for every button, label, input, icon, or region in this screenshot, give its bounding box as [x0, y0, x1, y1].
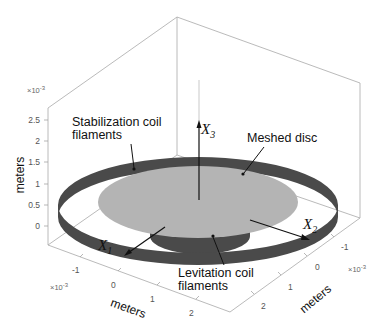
x-tick: -1 — [72, 265, 80, 275]
y-tick: 2 — [261, 301, 266, 311]
svg-text:filaments: filaments — [178, 279, 228, 293]
z-axis-ticks — [44, 120, 48, 226]
x-tick: 1 — [150, 294, 155, 304]
y-axis-label: meters — [297, 282, 334, 316]
svg-text:Stabilization coil: Stabilization coil — [72, 115, 162, 129]
svg-text:Meshed disc: Meshed disc — [247, 131, 317, 145]
x-exponent: ×10-3 — [50, 282, 69, 292]
x-tick: 2 — [189, 308, 194, 318]
z-tick: 0.5 — [28, 200, 40, 210]
z-tick: 2 — [35, 136, 40, 146]
x-axis-label: meters — [109, 295, 148, 321]
z-axis-label: meters — [13, 157, 27, 194]
3d-plot: 2.5 2 1.5 1 0.5 0 ×10-3 meters -1 0 1 2 … — [0, 0, 385, 331]
y-tick: 1 — [288, 282, 293, 292]
meshed-disc — [98, 166, 298, 238]
z-tick: 1 — [35, 179, 40, 189]
y-tick: -1 — [341, 242, 349, 252]
svg-text:Levitation coil: Levitation coil — [178, 266, 254, 280]
x2-label: X2 — [302, 216, 317, 235]
svg-text:filaments: filaments — [72, 128, 122, 142]
x3-label: X3 — [200, 121, 215, 140]
z-exponent: ×10-3 — [27, 85, 46, 95]
z-tick: 0 — [35, 221, 40, 231]
x1-label: X1 — [97, 237, 112, 256]
y-tick: 0 — [315, 262, 320, 272]
z-tick: 2.5 — [28, 115, 40, 125]
z-tick: 1.5 — [28, 157, 40, 167]
x-tick: 0 — [111, 280, 116, 290]
y-exponent: ×10-3 — [348, 264, 367, 274]
